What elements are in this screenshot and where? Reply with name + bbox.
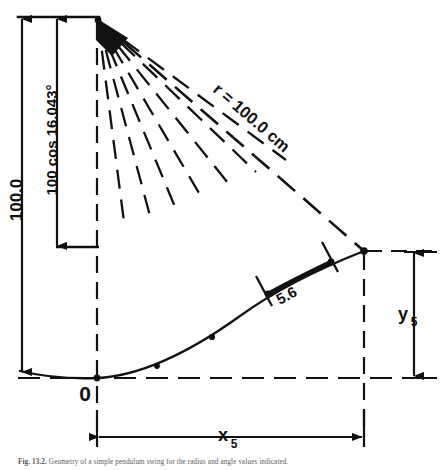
dimension-y5 (404, 252, 437, 378)
label-cos-projection: 100 cos 16.043° (43, 84, 60, 195)
pivot-point (95, 17, 128, 56)
figure-caption: Fig. 13.2. Geometry of a simple pendulum… (18, 458, 438, 466)
label-total-height: 100.0 (7, 179, 26, 222)
label-radius: r = 100.0 cm (210, 80, 294, 156)
figure-canvas: 100.0 100 cos 16.043° r = 100.0 cm 5.6 0… (0, 0, 445, 470)
svg-text:5: 5 (411, 315, 418, 329)
label-origin: 0 (79, 382, 91, 405)
trajectory-curve (20, 251, 364, 378)
pendulum-geometry-figure: 100.0 100 cos 16.043° r = 100.0 cm 5.6 0… (0, 0, 445, 470)
svg-text:y: y (398, 304, 408, 324)
radius-main-line (98, 20, 364, 251)
radius-dash-2 (98, 21, 150, 216)
dimension-cos-projection (56, 19, 99, 247)
svg-text:5: 5 (231, 437, 238, 451)
svg-text:x: x (218, 425, 228, 445)
curve-dot (154, 363, 160, 369)
figure-caption-text: Geometry of a simple pendulum swing for … (49, 458, 289, 466)
figure-caption-number: Fig. 13.2. (18, 458, 47, 466)
curve-dot (209, 334, 215, 340)
label-x5: x 5 (218, 425, 238, 451)
